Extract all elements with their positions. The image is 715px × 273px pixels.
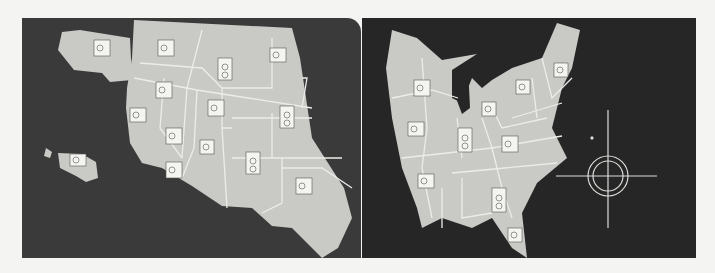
- eastern-us-shape: [386, 23, 580, 258]
- west-map-panel: [22, 18, 361, 258]
- compass-rose: [556, 110, 657, 228]
- east-map-panel: [362, 18, 696, 258]
